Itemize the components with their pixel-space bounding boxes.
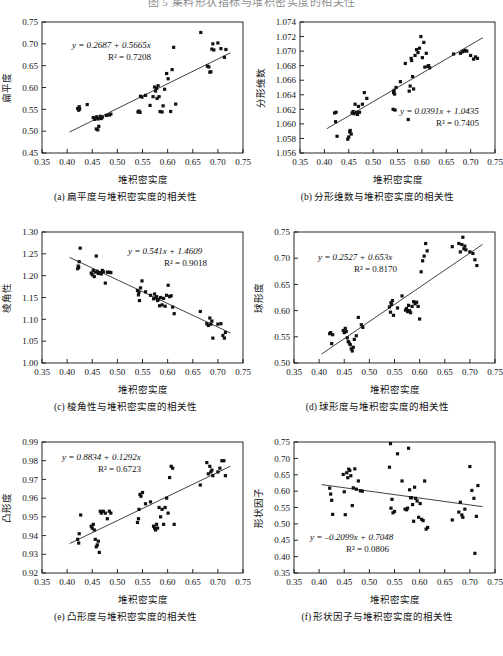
data-point: [328, 487, 331, 490]
r-squared-label: R² = 0.9018: [164, 258, 208, 268]
y-tick-label: 0.50: [274, 519, 290, 529]
data-point: [151, 95, 154, 98]
y-tick-label: 0.60: [274, 486, 290, 496]
y-tick-label: 1.10: [22, 315, 38, 325]
data-point: [212, 48, 215, 51]
data-point: [350, 132, 353, 135]
plot-b: 1.0561.0581.0601.0621.0641.0661.0681.070…: [252, 14, 503, 228]
data-point: [167, 512, 170, 515]
data-point: [159, 515, 162, 518]
data-point: [162, 297, 165, 300]
subplot-caption: (e) 凸形度与堆积密实度的相关性: [54, 611, 197, 623]
data-point: [218, 467, 221, 470]
data-point: [410, 496, 413, 499]
data-point: [79, 247, 82, 250]
data-point: [400, 479, 403, 482]
x-tick-label: 0.50: [362, 367, 378, 377]
data-point: [138, 111, 141, 114]
data-point: [167, 77, 170, 80]
data-point: [469, 54, 472, 57]
regression-equation: y = 0.541x + 1.4609: [127, 246, 203, 256]
x-tick-label: 0.40: [59, 577, 75, 587]
plot-e: 0.920.930.940.950.960.970.980.990.350.40…: [0, 434, 251, 648]
data-point: [390, 498, 393, 501]
subplot-f: 0.350.400.450.500.550.600.650.700.750.35…: [252, 434, 503, 648]
data-point: [470, 489, 473, 492]
data-point: [365, 97, 368, 100]
data-point: [93, 275, 96, 278]
y-tick-label: 0.95: [22, 512, 38, 522]
data-point: [144, 290, 147, 293]
x-tick-label: 0.45: [341, 157, 357, 167]
y-tick-label: 0.93: [22, 549, 38, 559]
data-point: [461, 236, 464, 239]
r-squared-label: R² = 0.6723: [98, 464, 142, 474]
data-point: [346, 336, 349, 339]
r-squared-label: R² = 0.7405: [436, 118, 480, 128]
y-tick-label: 0.94: [22, 531, 38, 541]
data-point: [162, 104, 165, 107]
y-tick-label: 0.55: [274, 503, 290, 513]
data-point: [139, 495, 142, 498]
data-point: [357, 479, 360, 482]
data-point: [415, 48, 418, 51]
data-point: [86, 103, 89, 106]
data-point: [211, 474, 214, 477]
x-tick-label: 0.65: [438, 157, 454, 167]
regression-equation: y = –0.2099x + 0.7048: [309, 532, 394, 542]
data-point: [423, 479, 426, 482]
subplot-a: 0.450.500.550.600.650.700.750.350.400.45…: [0, 14, 251, 228]
data-point: [475, 515, 478, 518]
y-tick-label: 0.40: [274, 552, 290, 562]
data-point: [137, 508, 140, 511]
data-point: [330, 342, 333, 345]
data-point: [388, 466, 391, 469]
x-tick-label: 0.55: [387, 577, 403, 587]
data-point: [423, 66, 426, 69]
data-point: [156, 526, 159, 529]
data-point: [157, 95, 160, 98]
data-point: [205, 461, 208, 464]
data-point: [463, 245, 466, 248]
data-point: [404, 62, 407, 65]
data-point: [140, 279, 143, 282]
x-tick-label: 0.75: [487, 577, 503, 587]
data-point: [331, 513, 334, 516]
x-tick-label: 0.65: [185, 367, 201, 377]
data-point: [408, 90, 411, 93]
data-point: [138, 299, 141, 302]
x-axis-label: 堆积密实度: [118, 174, 168, 185]
data-point: [98, 551, 101, 554]
data-point: [104, 281, 107, 284]
data-point: [475, 264, 478, 267]
x-tick-label: 0.45: [84, 157, 100, 167]
data-point: [171, 68, 174, 71]
data-point: [416, 51, 419, 54]
x-tick-label: 0.55: [135, 367, 151, 377]
data-point: [428, 66, 431, 69]
data-point: [426, 526, 429, 529]
data-point: [413, 486, 416, 489]
data-point: [472, 497, 475, 500]
data-point: [421, 56, 424, 59]
data-point: [165, 497, 168, 500]
data-point: [208, 465, 211, 468]
x-tick-label: 0.40: [311, 577, 327, 587]
data-point: [451, 518, 454, 521]
data-point: [476, 484, 479, 487]
data-point: [173, 312, 176, 315]
data-point: [389, 442, 392, 445]
data-point: [352, 346, 355, 349]
y-tick-label: 1.058: [276, 134, 297, 144]
plot-d: 0.500.550.600.650.700.750.350.400.450.50…: [252, 224, 503, 438]
data-point: [77, 266, 80, 269]
data-point: [149, 294, 152, 297]
data-point: [137, 517, 140, 520]
data-point: [347, 135, 350, 138]
data-point: [106, 517, 109, 520]
subplot-caption: (b) 分形维数与堆积密实度的相关性: [301, 191, 454, 203]
y-tick-label: 0.70: [274, 454, 290, 464]
data-point: [361, 103, 364, 106]
plot-c: 1.001.051.101.151.201.251.300.350.400.45…: [0, 224, 251, 438]
data-point: [406, 507, 409, 510]
